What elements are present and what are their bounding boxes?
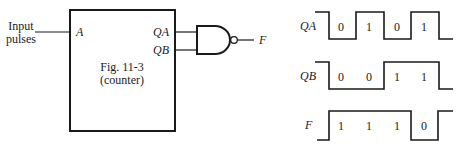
pin-a-label: A (76, 26, 83, 39)
qb-wave-label: QB (300, 70, 316, 83)
nand-gate-icon (197, 26, 230, 54)
box-title: Fig. 11-3 (counter) (92, 61, 152, 87)
qb-bit: 1 (387, 70, 407, 85)
qa-bit: 1 (414, 20, 434, 35)
output-f-label: F (259, 34, 266, 47)
f-bit: 0 (414, 119, 434, 134)
qa-bit: 0 (387, 20, 407, 35)
f-bit: 1 (331, 119, 351, 134)
pin-qb-label: QB (153, 44, 169, 57)
qb-bit: 0 (331, 70, 351, 85)
pin-qa-label: QA (153, 26, 169, 39)
qb-bit: 0 (359, 70, 379, 85)
f-wave-label: F (305, 119, 312, 132)
inverter-bubble-icon (231, 37, 238, 44)
qa-bit: 1 (359, 20, 379, 35)
qa-wave-label: QA (300, 20, 316, 33)
input-label: Input pulses (5, 20, 37, 46)
f-bit: 1 (359, 119, 379, 134)
qb-bit: 1 (414, 70, 434, 85)
box-title-line2: (counter) (92, 74, 152, 87)
f-bit: 1 (387, 119, 407, 134)
input-label-line2: pulses (5, 33, 37, 46)
qa-bit: 0 (331, 20, 351, 35)
